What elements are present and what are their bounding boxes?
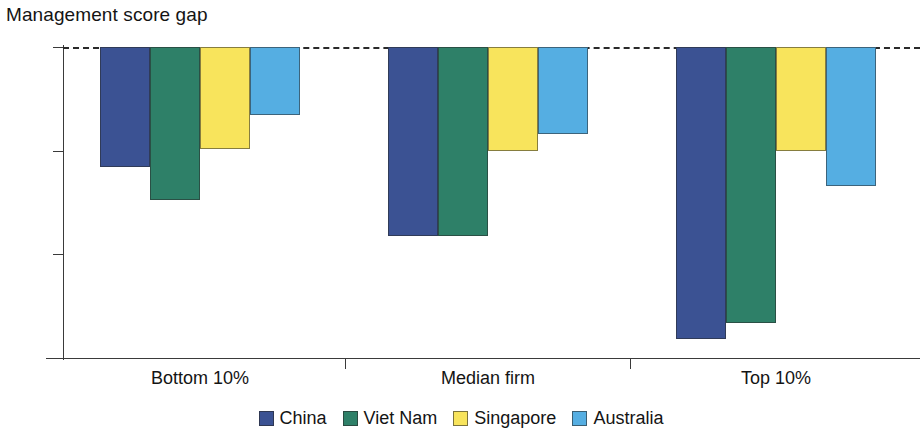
legend-swatch-icon (572, 411, 587, 426)
y-tick-mark (53, 254, 63, 255)
legend-swatch-icon (259, 411, 274, 426)
x-axis-separator (630, 358, 631, 369)
y-tick-mark (53, 151, 63, 152)
bar-china-median-firm (388, 47, 438, 236)
legend-item-viet-nam[interactable]: Viet Nam (343, 408, 438, 429)
chart-title: Management score gap (6, 4, 208, 26)
x-axis-line (46, 358, 920, 359)
legend-label: Singapore (474, 408, 556, 429)
plot-area (63, 47, 920, 358)
bar-australia-bottom-10 (250, 47, 300, 115)
bar-australia-top-10 (826, 47, 876, 186)
legend-label: Viet Nam (364, 408, 438, 429)
legend-item-singapore[interactable]: Singapore (453, 408, 556, 429)
x-axis-label-top-10: Top 10% (676, 368, 876, 389)
chart-legend: ChinaViet NamSingaporeAustralia (0, 408, 922, 429)
bar-viet-nam-bottom-10 (150, 47, 200, 200)
bar-china-bottom-10 (100, 47, 150, 167)
x-axis-separator (345, 358, 346, 369)
bar-china-top-10 (676, 47, 726, 339)
bar-viet-nam-median-firm (438, 47, 488, 236)
bar-singapore-median-firm (488, 47, 538, 151)
legend-item-australia[interactable]: Australia (572, 408, 663, 429)
legend-swatch-icon (343, 411, 358, 426)
bar-singapore-top-10 (776, 47, 826, 151)
bar-singapore-bottom-10 (200, 47, 250, 149)
y-tick-mark (53, 358, 63, 359)
bar-chart: Management score gap 0 −0.5 −1.0 −1.5 Bo… (0, 0, 922, 440)
legend-item-china[interactable]: China (259, 408, 327, 429)
legend-label: China (280, 408, 327, 429)
bar-australia-median-firm (538, 47, 588, 134)
x-axis-label-bottom-10: Bottom 10% (100, 368, 300, 389)
bar-viet-nam-top-10 (726, 47, 776, 323)
x-axis-label-median-firm: Median firm (388, 368, 588, 389)
y-tick-mark (53, 47, 63, 48)
legend-label: Australia (593, 408, 663, 429)
legend-swatch-icon (453, 411, 468, 426)
